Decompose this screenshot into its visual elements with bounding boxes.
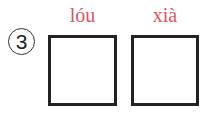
character-writing-box-1[interactable] [48,35,117,106]
pinyin-label-2: xià [131,5,199,25]
pinyin-label-1: lóu [48,5,117,25]
question-number: 3 [16,31,28,52]
character-writing-box-2[interactable] [131,35,199,106]
question-number-badge: 3 [8,28,35,55]
